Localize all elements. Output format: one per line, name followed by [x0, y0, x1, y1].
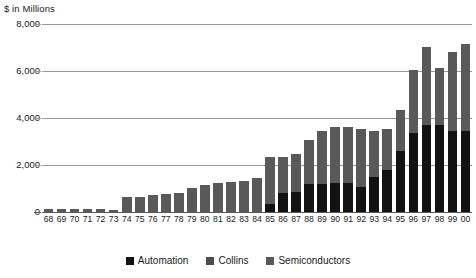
bar-segment-semiconductors [187, 188, 197, 212]
x-axis-label-74: 74 [120, 214, 133, 225]
bar-column[interactable] [148, 195, 158, 212]
x-axis-label-98: 98 [433, 214, 446, 225]
legend-item-collins[interactable]: Collins [206, 255, 248, 266]
bar-segment-automation [409, 133, 419, 212]
y-tick-0 [34, 212, 41, 213]
x-axis-label-72: 72 [94, 214, 107, 225]
bar-column[interactable] [304, 140, 314, 212]
bar-segment-semiconductors [356, 129, 366, 188]
bar-segment-semiconductors [382, 129, 392, 170]
x-axis-label-83: 83 [237, 214, 250, 225]
x-axis-label-91: 91 [342, 214, 355, 225]
bar-column[interactable] [57, 209, 67, 212]
bar-column[interactable] [382, 129, 392, 212]
bar-column[interactable] [409, 70, 419, 212]
bar-segment-automation [343, 183, 353, 212]
x-axis-label-81: 81 [211, 214, 224, 225]
bar-segment-semiconductors [396, 110, 406, 151]
bar-segment-semiconductors [461, 44, 471, 131]
legend-swatch-icon [126, 257, 134, 265]
bar-column[interactable] [96, 209, 106, 212]
chart-title: $ in Millions [4, 3, 55, 14]
bar-segment-semiconductors [409, 70, 419, 133]
bar-segment-semiconductors [369, 131, 379, 176]
x-axis-label-73: 73 [107, 214, 120, 225]
bar-segment-semiconductors [44, 209, 54, 212]
bar-column[interactable] [83, 209, 93, 212]
bar-segment-automation [422, 125, 432, 212]
bar-column[interactable] [213, 183, 223, 212]
bar-column[interactable] [174, 193, 184, 212]
x-axis-label-80: 80 [198, 214, 211, 225]
legend-item-automation[interactable]: Automation [126, 255, 189, 266]
bar-column[interactable] [435, 68, 445, 213]
x-axis-labels: 6869707172737475767778798081828384858687… [42, 214, 472, 228]
bar-segment-semiconductors [278, 157, 288, 194]
bar-column[interactable] [278, 157, 288, 212]
bar-column[interactable] [356, 129, 366, 212]
bar-column[interactable] [200, 185, 210, 212]
x-axis-label-96: 96 [407, 214, 420, 225]
bar-column[interactable] [396, 110, 406, 212]
legend-label: Collins [218, 255, 248, 266]
bar-segment-semiconductors [317, 131, 327, 184]
gridline-0 [42, 212, 472, 213]
bar-segment-automation [291, 192, 301, 212]
x-axis-label-88: 88 [303, 214, 316, 225]
x-axis-label-92: 92 [355, 214, 368, 225]
bar-segment-semiconductors [291, 154, 301, 192]
bar-segment-semiconductors [239, 181, 249, 212]
x-axis-label-77: 77 [159, 214, 172, 225]
bar-column[interactable] [161, 194, 171, 212]
bar-segment-semiconductors [265, 157, 275, 204]
x-axis-label-87: 87 [290, 214, 303, 225]
bar-segment-automation [369, 177, 379, 212]
bar-segment-automation [317, 184, 327, 212]
bar-column[interactable] [422, 47, 432, 212]
x-axis-label-95: 95 [394, 214, 407, 225]
bar-column[interactable] [265, 157, 275, 212]
x-axis-label-78: 78 [172, 214, 185, 225]
x-axis-label-89: 89 [316, 214, 329, 225]
bar-segment-semiconductors [70, 209, 80, 212]
x-axis-label-69: 69 [55, 214, 68, 225]
bar-column[interactable] [343, 127, 353, 212]
x-axis-label-75: 75 [133, 214, 146, 225]
bar-column[interactable] [252, 178, 262, 212]
x-axis-label-86: 86 [277, 214, 290, 225]
bar-segment-semiconductors [174, 193, 184, 212]
bar-column[interactable] [109, 210, 119, 212]
x-axis-label-68: 68 [42, 214, 55, 225]
legend-label: Semiconductors [278, 255, 350, 266]
y-tick-2000 [34, 165, 41, 166]
x-axis-label-99: 99 [446, 214, 459, 225]
legend-swatch-icon [206, 257, 214, 265]
bar-column[interactable] [187, 188, 197, 212]
x-axis-label-97: 97 [420, 214, 433, 225]
legend-item-semiconductors[interactable]: Semiconductors [266, 255, 350, 266]
bar-segment-semiconductors [330, 127, 340, 183]
bar-column[interactable] [135, 197, 145, 212]
bar-segment-semiconductors [161, 194, 171, 212]
bar-column[interactable] [226, 182, 236, 212]
bar-segment-semiconductors [213, 183, 223, 212]
bar-column[interactable] [291, 154, 301, 213]
y-tick-8000 [34, 24, 41, 25]
x-axis-label-00: 00 [459, 214, 472, 225]
bar-column[interactable] [239, 181, 249, 212]
plot-area [42, 24, 472, 212]
x-axis-label-70: 70 [68, 214, 81, 225]
y-tick-4000 [34, 118, 41, 119]
bar-segment-automation [278, 193, 288, 212]
bar-column[interactable] [122, 197, 132, 212]
bar-segment-semiconductors [83, 209, 93, 212]
bar-segment-semiconductors [148, 195, 158, 212]
bar-column[interactable] [70, 209, 80, 212]
bar-column[interactable] [369, 131, 379, 212]
bar-column[interactable] [448, 52, 458, 212]
bar-column[interactable] [330, 127, 340, 212]
bar-column[interactable] [44, 209, 54, 212]
bar-column[interactable] [461, 44, 471, 212]
bar-column[interactable] [317, 131, 327, 212]
bar-segment-semiconductors [135, 197, 145, 212]
